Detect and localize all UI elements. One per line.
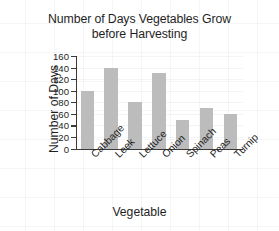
bar bbox=[81, 91, 95, 149]
x-axis-title: Vegetable bbox=[0, 205, 279, 219]
gridline bbox=[76, 56, 243, 57]
y-axis-title: Number of Days bbox=[47, 65, 61, 153]
y-axis-line bbox=[76, 56, 77, 150]
chart-title: Number of Days Vegetables Grow before Ha… bbox=[0, 12, 279, 42]
gridline bbox=[76, 68, 243, 69]
chart-figure: Number of Days Vegetables Grow before Ha… bbox=[0, 0, 279, 231]
y-tick-label: 0 bbox=[64, 143, 69, 154]
plot-area: 020406080100120140160 CabbageLeekLettuce… bbox=[76, 56, 243, 150]
y-tick-label: 160 bbox=[53, 51, 69, 62]
